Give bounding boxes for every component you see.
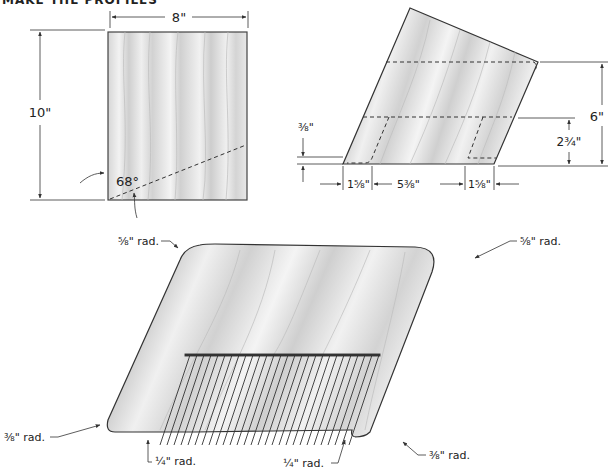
offset-label: ⅜" xyxy=(298,121,314,134)
cut-piece xyxy=(343,8,538,164)
top-left-radius-label: ⅝" rad. xyxy=(118,235,159,248)
comb-pattern-diagram: 8" 10" 68° ⅜" 1⅝" xyxy=(0,0,610,471)
offset-dimension: ⅜" xyxy=(297,121,343,182)
width-label: 8" xyxy=(172,10,186,25)
bottom-right-radius-label: ⅜" rad. xyxy=(429,449,470,462)
comb xyxy=(107,244,434,445)
width-dimension: 8" xyxy=(110,10,248,28)
bottom-dimensions: 1⅝" 5⅜" 1⅝" xyxy=(320,166,519,191)
bottom-right-label: 1⅝" xyxy=(468,178,491,191)
teeth-right-radius-label: ¼" rad. xyxy=(283,457,324,470)
top-right-radius-label: ⅝" rad. xyxy=(520,235,561,248)
angle-label: 68° xyxy=(116,174,139,189)
inner-height-label: 2¾" xyxy=(557,135,582,149)
bottom-left-label: 1⅝" xyxy=(347,178,370,191)
bottom-left-radius-label: ⅜" rad. xyxy=(4,431,45,444)
total-height-label: 6" xyxy=(590,109,604,124)
teeth-left-radius-label: ¼" rad. xyxy=(155,455,196,468)
height-label: 10" xyxy=(29,105,52,120)
bottom-middle-label: 5⅜" xyxy=(397,178,420,191)
